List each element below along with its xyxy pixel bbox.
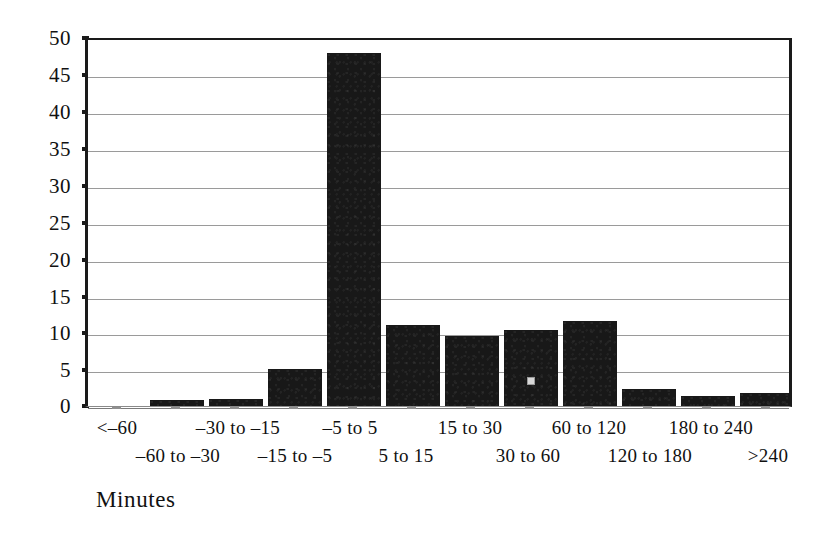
x-label-15-to-30: 15 to 30 xyxy=(438,418,503,438)
x-label-gt-240: >240 xyxy=(748,446,788,466)
x-axis-title: Minutes xyxy=(96,487,176,513)
x-label-120-to-180: 120 to 180 xyxy=(608,446,692,466)
x-label-30-to-60: 30 to 60 xyxy=(496,446,561,466)
x-label-5-to-15: 5 to 15 xyxy=(379,446,434,466)
x-label-60-to-120: 60 to 120 xyxy=(552,418,626,438)
x-label-minus5-to-5: –5 to 5 xyxy=(323,418,378,438)
x-label-minus60-to-minus30: –60 to –30 xyxy=(136,446,220,466)
x-label-minus15-to-minus5: –15 to –5 xyxy=(258,446,332,466)
x-label-minus30-to-minus15: –30 to –15 xyxy=(196,418,280,438)
x-label-lt-minus60: <–60 xyxy=(97,418,137,438)
x-axis-labels: <–60 –60 to –30 –30 to –15 –15 to –5 –5 … xyxy=(0,0,833,540)
x-label-180-to-240: 180 to 240 xyxy=(669,418,753,438)
histogram-chart: 50 45 40 35 30 25 20 15 10 5 0 xyxy=(0,0,833,540)
